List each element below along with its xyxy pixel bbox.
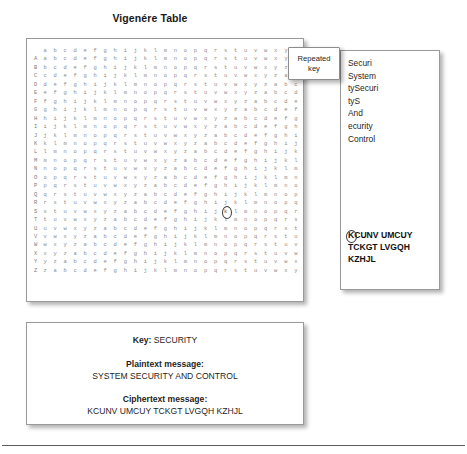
vigenere-cell: l: [271, 174, 281, 182]
vigenere-row-label: A: [31, 55, 40, 63]
key-line: Key: SECURITY: [27, 335, 303, 346]
vigenere-cell: h: [241, 165, 251, 173]
vigenere-cell: w: [50, 233, 60, 241]
vigenere-cell: y: [291, 267, 301, 275]
vigenere-cell: b: [120, 216, 130, 224]
vigenere-cell: m: [90, 115, 100, 123]
vigenere-cell: w: [40, 241, 50, 249]
vigenere-row: Bbcdefghijklmnopqrstuvwxyza: [31, 64, 301, 72]
vigenere-cell: r: [160, 98, 170, 106]
vigenere-cell: r: [100, 148, 110, 156]
vigenere-cell: i: [241, 174, 251, 182]
vigenere-cell: l: [211, 225, 221, 233]
vigenere-cell: n: [251, 208, 261, 216]
vigenere-cell: j: [251, 174, 261, 182]
vigenere-cell: d: [170, 191, 180, 199]
vigenere-cell: q: [190, 64, 200, 72]
vigenere-cell: t: [50, 208, 60, 216]
vigenere-cell: o: [60, 157, 70, 165]
vigenere-cell: n: [60, 148, 70, 156]
vigenere-cell: j: [90, 89, 100, 97]
vigenere-cell: s: [40, 208, 50, 216]
vigenere-cell: k: [170, 250, 180, 258]
vigenere-cell: i: [160, 241, 170, 249]
vigenere-cell: q: [271, 216, 281, 224]
vigenere-cell: m: [180, 258, 190, 266]
vigenere-cell: s: [180, 89, 190, 97]
vigenere-cell: b: [211, 140, 221, 148]
vigenere-cell: y: [100, 208, 110, 216]
key-fragment: tyS: [348, 95, 378, 108]
vigenere-cell: t: [40, 216, 50, 224]
vigenere-cell: s: [120, 140, 130, 148]
vigenere-cell: j: [211, 208, 221, 216]
vigenere-cell: o: [221, 241, 231, 249]
vigenere-cell: v: [201, 98, 211, 106]
vigenere-cell: b: [271, 89, 281, 97]
vigenere-cell: x: [40, 250, 50, 258]
vigenere-cell: c: [70, 267, 80, 275]
vigenere-cell: g: [80, 72, 90, 80]
vigenere-cell: e: [201, 174, 211, 182]
vigenere-cell: y: [211, 115, 221, 123]
vigenere-cell: a: [221, 123, 231, 131]
vigenere-cell: f: [130, 241, 140, 249]
vigenere-row: Iijklmnopqrstuvwxyzabcdefgh: [31, 123, 301, 131]
vigenere-cell: q: [100, 140, 110, 148]
vigenere-cell: g: [160, 225, 170, 233]
vigenere-cell: u: [110, 165, 120, 173]
vigenere-cell: l: [80, 115, 90, 123]
key-label: Key:: [133, 335, 152, 345]
vigenere-row: Jjklmnopqrstuvwxyzabcdefghi: [31, 132, 301, 140]
vigenere-cell: w: [80, 208, 90, 216]
vigenere-header-cell: s: [221, 47, 231, 55]
vigenere-cell: s: [100, 157, 110, 165]
vigenere-cell: z: [40, 267, 50, 275]
vigenere-row-label: V: [31, 233, 40, 241]
vigenere-cell: y: [60, 241, 70, 249]
vigenere-cell: j: [271, 157, 281, 165]
vigenere-cell: h: [80, 81, 90, 89]
vigenere-cell: t: [90, 174, 100, 182]
vigenere-cell: u: [80, 191, 90, 199]
vigenere-cell: d: [261, 115, 271, 123]
vigenere-cell: r: [261, 233, 271, 241]
vigenere-cell: u: [140, 140, 150, 148]
vigenere-cell: m: [170, 267, 180, 275]
vigenere-cell: k: [241, 191, 251, 199]
vigenere-cell: d: [160, 199, 170, 207]
vigenere-cell: b: [150, 191, 160, 199]
vigenere-cell: g: [281, 123, 291, 131]
vigenere-cell: f: [120, 250, 130, 258]
vigenere-cell: p: [211, 258, 221, 266]
vigenere-cell: x: [221, 98, 231, 106]
vigenere-row-label: D: [31, 81, 40, 89]
vigenere-row: Uuvwxyzabcdefghijklmnopqrst: [31, 225, 301, 233]
vigenere-cell: p: [60, 165, 70, 173]
vigenere-cell: n: [50, 157, 60, 165]
vigenere-row: Ffghijklmnopqrstuvwxyzabcde: [31, 98, 301, 106]
vigenere-cell: h: [201, 199, 211, 207]
vigenere-cell: g: [100, 55, 110, 63]
vigenere-cell: c: [60, 55, 70, 63]
vigenere-cell: h: [100, 64, 110, 72]
vigenere-cell: k: [190, 233, 200, 241]
vigenere-cell: a: [50, 267, 60, 275]
vigenere-cell: m: [80, 123, 90, 131]
vigenere-cell: s: [190, 81, 200, 89]
vigenere-cell: j: [231, 191, 241, 199]
vigenere-cell: c: [160, 191, 170, 199]
vigenere-row-label: G: [31, 106, 40, 114]
vigenere-cell: p: [150, 89, 160, 97]
vigenere-cell: w: [291, 250, 301, 258]
vigenere-cell: y: [160, 157, 170, 165]
vigenere-cell: u: [251, 267, 261, 275]
vigenere-row-label: X: [31, 250, 40, 258]
vigenere-cell: r: [231, 258, 241, 266]
vigenere-cell: j: [80, 98, 90, 106]
vigenere-row: Zzabcdefghijklmnopqrstuvwxy: [31, 267, 301, 275]
vigenere-cell: h: [251, 157, 261, 165]
vigenere-cell: f: [160, 216, 170, 224]
vigenere-cell: w: [70, 216, 80, 224]
ciphertext-output: KCUNV UMCUYTCKGT LVGQHKZHJL: [348, 229, 412, 266]
